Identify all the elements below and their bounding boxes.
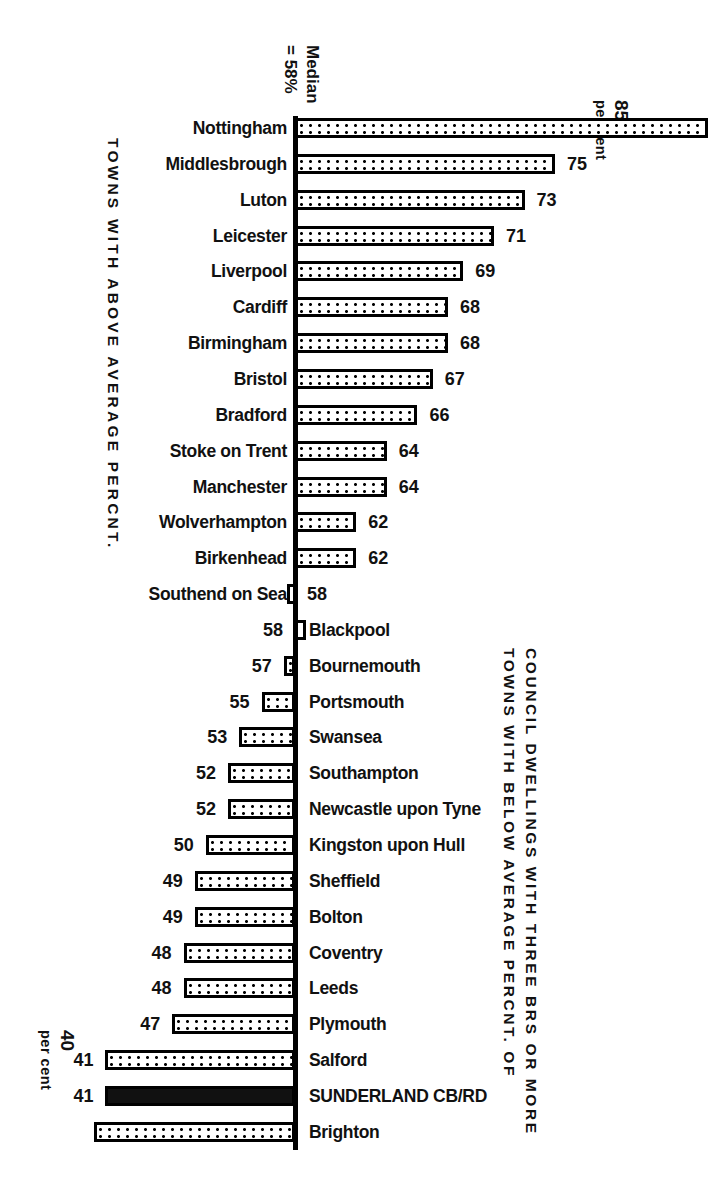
bar-row: Leicester71 [0,220,681,256]
bar-row: Birmingham68 [0,327,681,363]
bar-value: 64 [399,474,419,500]
bar-row: Leeds48 [0,972,681,1008]
bar-value: 58 [307,581,327,607]
bar-row: Southampton52 [0,757,681,793]
bar-row: SUNDERLAND CB/RD41 [0,1080,681,1116]
bar-row: Brighton40 [0,1116,681,1152]
bar-value: 66 [429,402,449,428]
bar-value: 55 [230,689,250,715]
bar [228,763,295,783]
bar [206,835,295,855]
bar [195,907,295,927]
bar-value: 64 [399,438,419,464]
bar-zero-stub [287,584,295,604]
bar [239,727,295,747]
bar [295,548,356,568]
bar-value: 68 [460,330,480,356]
bar-row: Portsmouth55 [0,686,681,722]
bar-label: SUNDERLAND CB/RD [309,1083,487,1109]
bar-label: Birmingham [188,330,287,356]
bar-label: Leeds [309,975,358,1001]
bar-value: 69 [475,258,495,284]
bar-value: 48 [151,975,171,1001]
median-label-line1: Median [302,45,322,104]
bar [228,799,295,819]
bar-highlighted [105,1086,295,1106]
bar-row: Liverpool69 [0,255,681,291]
bar [284,656,295,676]
bar-row: Plymouth47 [0,1008,681,1044]
bar-value: 57 [252,653,272,679]
bar [295,190,525,210]
bar [295,261,463,281]
bar [295,118,708,138]
bar-value: 50 [174,832,194,858]
bar [94,1122,295,1142]
bar-value: 49 [163,904,183,930]
bar [295,226,494,246]
bar-value: 47 [140,1011,160,1037]
bar-label: Portsmouth [309,689,404,715]
bar-row: Stoke on Trent64 [0,435,681,471]
bar-label: Middlesbrough [165,151,287,177]
bar-label: Leicester [213,223,287,249]
bar-value: 58 [263,617,283,643]
bar-row: Salford41 [0,1044,681,1080]
bar-label: Newcastle upon Tyne [309,796,481,822]
bar-row: Coventry48 [0,937,681,973]
bar-row: Manchester64 [0,471,681,507]
bar-zero-stub [298,620,306,640]
bar-value: 41 [73,1047,93,1073]
bar-row: Luton73 [0,184,681,220]
bar-row: Sheffield49 [0,865,681,901]
bar [295,512,356,532]
bar-label: Sheffield [309,868,380,894]
bar-label: Wolverhampton [159,509,287,535]
bar-label: Liverpool [211,258,287,284]
bar-value: 68 [460,294,480,320]
bar [172,1014,295,1034]
bar-label: Nottingham [193,115,287,141]
bar-label: Plymouth [309,1011,386,1037]
bar-label: Bristol [234,366,287,392]
bar-value: 41 [73,1083,93,1109]
bar [262,692,295,712]
bar-row: Southend on Sea58 [0,578,681,614]
bar-value: 75 [567,151,587,177]
bar-row: Bournemouth57 [0,650,681,686]
bar-row: Middlesbrough75 [0,148,681,184]
bar [105,1050,295,1070]
bar [295,333,448,353]
bar-label: Coventry [309,940,382,966]
bar [295,154,555,174]
bar-value: 52 [196,760,216,786]
bar-row: Swansea53 [0,721,681,757]
bar-label: Blackpool [309,617,390,643]
bar [295,297,448,317]
bar-label: Birkenhead [195,545,287,571]
bar-label: Bolton [309,904,363,930]
median-label-line2: = 58% [280,45,300,94]
bar-value: 73 [537,187,557,213]
bar-row: Birkenhead62 [0,542,681,578]
bar-label: Brighton [309,1119,380,1145]
bar-row: Newcastle upon Tyne52 [0,793,681,829]
bar-value: 53 [207,724,227,750]
bar-row: Wolverhampton62 [0,506,681,542]
bar-value: 62 [368,509,388,535]
bar [295,441,387,461]
bar [184,978,296,998]
bar-row: Bradford66 [0,399,681,435]
bar [195,871,295,891]
bar-label: Cardiff [233,294,287,320]
bar-label: Southend on Sea [149,581,287,607]
bar-value: 52 [196,796,216,822]
bar [295,477,387,497]
bar-value: 67 [445,366,465,392]
bar [295,369,433,389]
bar-value: 62 [368,545,388,571]
bar [295,405,417,425]
bar-row: Bristol67 [0,363,681,399]
bar-label: Manchester [193,474,287,500]
